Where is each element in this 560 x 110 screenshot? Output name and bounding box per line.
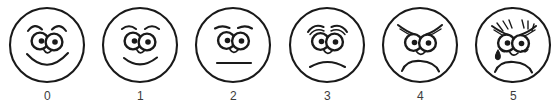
face-smiling-icon <box>1 1 94 87</box>
face-slight-smile-icon <box>94 1 187 87</box>
face-neutral-icon <box>187 1 280 87</box>
face-option-5[interactable]: 5 <box>467 0 560 110</box>
face-label-0: 0 <box>1 88 94 104</box>
face-option-3[interactable]: 3 <box>281 0 374 110</box>
face-option-4[interactable]: 4 <box>374 0 467 110</box>
face-label-3: 3 <box>281 88 374 104</box>
face-label-1: 1 <box>94 88 187 104</box>
faces-pain-scale: 0 1 2 <box>0 0 560 110</box>
face-label-5: 5 <box>467 88 560 104</box>
face-option-0[interactable]: 0 <box>1 0 94 110</box>
face-frowning-icon <box>374 1 467 87</box>
face-option-2[interactable]: 2 <box>187 0 280 110</box>
face-label-4: 4 <box>374 88 467 104</box>
face-label-2: 2 <box>187 88 280 104</box>
face-option-1[interactable]: 1 <box>94 0 187 110</box>
face-crying-icon <box>467 1 560 87</box>
face-slight-frown-icon <box>281 1 374 87</box>
